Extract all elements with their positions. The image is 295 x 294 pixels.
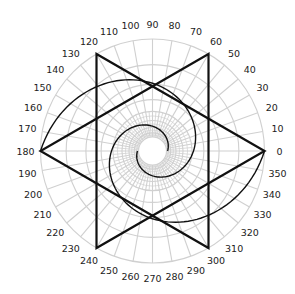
angle-tick-label: 300 xyxy=(207,255,225,266)
angle-tick-label: 150 xyxy=(33,82,51,93)
angle-tick-label: 270 xyxy=(143,273,161,284)
angle-tick-label: 20 xyxy=(266,102,278,113)
grid-spoke xyxy=(166,113,258,147)
angle-tick-label: 320 xyxy=(241,227,259,238)
angle-tick-label: 310 xyxy=(225,243,243,254)
angle-tick-label: 220 xyxy=(46,227,64,238)
angle-tick-label: 240 xyxy=(80,255,98,266)
angle-tick-label: 260 xyxy=(121,271,139,282)
grid-spoke xyxy=(47,113,139,147)
grid-spoke-minor xyxy=(162,123,180,141)
angle-tick-label: 120 xyxy=(80,36,98,47)
grid-spoke xyxy=(166,156,258,190)
angle-tick-label: 90 xyxy=(146,19,158,30)
angle-tick-label: 80 xyxy=(169,20,181,31)
angle-tick-label: 0 xyxy=(276,146,282,157)
angle-tick-label: 350 xyxy=(269,168,287,179)
polar-chart: 0102030405060708090100110120130140150160… xyxy=(0,0,295,294)
angle-tick-label: 130 xyxy=(62,48,80,59)
angle-tick-label: 70 xyxy=(190,26,202,37)
angle-tick-label: 180 xyxy=(16,146,34,157)
angle-tick-label: 330 xyxy=(253,209,271,220)
angle-tick-label: 160 xyxy=(24,102,42,113)
angle-tick-label: 50 xyxy=(228,48,240,59)
angle-tick-label: 210 xyxy=(33,209,51,220)
grid-spoke-minor xyxy=(124,161,142,179)
angle-tick-label: 200 xyxy=(24,189,42,200)
angle-tick-label: 170 xyxy=(18,123,36,134)
grid-spoke xyxy=(47,156,139,190)
polar-grid xyxy=(41,39,265,263)
angle-tick-label: 340 xyxy=(263,189,281,200)
angle-tick-label: 10 xyxy=(272,123,284,134)
angle-tick-label: 280 xyxy=(165,271,183,282)
angle-tick-label: 290 xyxy=(187,265,205,276)
angle-tick-label: 40 xyxy=(244,64,256,75)
angle-tick-label: 100 xyxy=(121,20,139,31)
angle-tick-label: 230 xyxy=(62,243,80,254)
angle-tick-label: 250 xyxy=(100,265,118,276)
angle-tick-label: 110 xyxy=(100,26,118,37)
angle-tick-label: 30 xyxy=(256,82,268,93)
grid-ring xyxy=(139,137,167,165)
angle-tick-label: 190 xyxy=(18,168,36,179)
angle-tick-label: 60 xyxy=(210,36,222,47)
angle-tick-label: 140 xyxy=(46,64,64,75)
